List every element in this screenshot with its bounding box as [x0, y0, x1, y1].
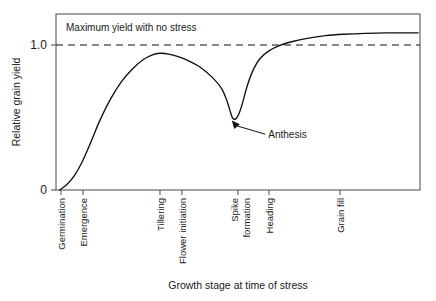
- figure-container: 0 1.0 Maximum yield with no stress Germi…: [0, 0, 436, 301]
- x-stage-label-spike-formation-line1: Spike: [229, 198, 240, 222]
- reference-line-label: Maximum yield with no stress: [66, 22, 197, 33]
- data-series-relative-grain-yield: [60, 33, 419, 190]
- x-stage-label-germination: Germination: [56, 198, 67, 250]
- y-axis-ticks: [51, 45, 56, 190]
- y-tick-label-1: 1.0: [30, 38, 47, 52]
- x-axis-title: Growth stage at time of stress: [168, 279, 307, 291]
- x-stage-labels: Germination Emergence Tillering Flower i…: [56, 198, 346, 264]
- x-stage-label-tillering: Tillering: [155, 198, 166, 231]
- x-stage-label-spike-formation-line2: formation: [241, 198, 252, 238]
- x-axis-ticks: [61, 190, 340, 195]
- x-stage-label-emergence: Emergence: [78, 198, 89, 247]
- grain-yield-line-chart: 0 1.0 Maximum yield with no stress Germi…: [0, 0, 436, 301]
- anthesis-annotation: [232, 121, 265, 135]
- plot-frame: [56, 14, 420, 190]
- y-axis-title: Relative grain yield: [10, 57, 22, 146]
- y-tick-label-0: 0: [40, 183, 47, 197]
- anthesis-label: Anthesis: [268, 129, 306, 140]
- x-stage-label-flower-initiation: Flower initiation: [177, 198, 188, 264]
- x-stage-label-grain-fill: Grain fill: [335, 198, 346, 233]
- x-stage-label-heading: Heading: [264, 198, 275, 233]
